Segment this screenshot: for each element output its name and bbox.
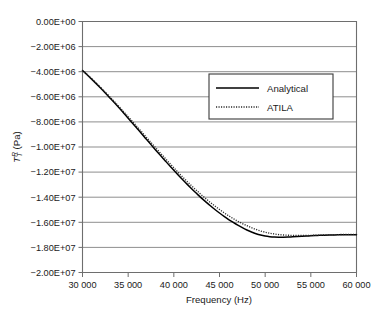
svg-text:TTR (Pa): TTR (Pa) xyxy=(11,131,23,162)
legend-label-analytical: Analytical xyxy=(267,83,308,94)
y-axis-tick-labels: 0.00E+00−2.00E+06−4.00E+06−6.00E+06−8.00… xyxy=(31,17,76,278)
x-tick-label: 50 000 xyxy=(251,280,279,290)
y-axis-ticks xyxy=(79,22,83,273)
y-tick-label: −2.00E+06 xyxy=(31,42,76,52)
frequency-transfer-line-chart: 0.00E+00−2.00E+06−4.00E+06−6.00E+06−8.00… xyxy=(0,0,392,316)
y-tick-label: −1.20E+07 xyxy=(31,167,76,177)
y-tick-label: −1.00E+07 xyxy=(31,142,76,152)
y-tick-label: 0.00E+00 xyxy=(36,17,76,27)
y-tick-label: −1.60E+07 xyxy=(31,218,76,228)
y-tick-label: −1.40E+07 xyxy=(31,193,76,203)
y-axis-title: TTR (Pa) xyxy=(11,131,23,162)
y-tick-label: −8.00E+06 xyxy=(31,117,76,127)
x-tick-label: 60 000 xyxy=(342,280,370,290)
x-axis-title: Frequency (Hz) xyxy=(186,294,252,305)
x-tick-label: 45 000 xyxy=(205,280,233,290)
x-axis-ticks xyxy=(83,273,357,278)
y-tick-label: −6.00E+06 xyxy=(31,92,76,102)
y-tick-label: −1.80E+07 xyxy=(31,243,76,253)
chart-legend: Analytical ATILA xyxy=(209,74,333,119)
chart-figure: 0.00E+00−2.00E+06−4.00E+06−6.00E+06−8.00… xyxy=(0,0,392,316)
x-tick-label: 40 000 xyxy=(160,280,188,290)
y-tick-label: −2.00E+07 xyxy=(31,268,76,278)
x-tick-label: 30 000 xyxy=(68,280,96,290)
x-tick-label: 55 000 xyxy=(297,280,325,290)
legend-label-atila: ATILA xyxy=(267,102,294,113)
y-axis-title-unit: (Pa) xyxy=(11,131,22,152)
y-tick-label: −4.00E+06 xyxy=(31,67,76,77)
x-tick-label: 35 000 xyxy=(114,280,142,290)
x-axis-tick-labels: 30 00035 00040 00045 00050 00055 00060 0… xyxy=(68,280,370,290)
